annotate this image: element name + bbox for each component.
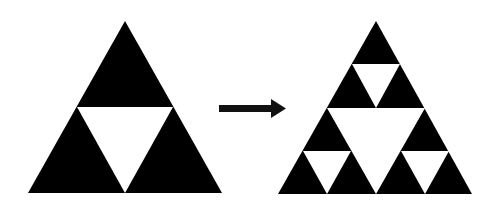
arrow-right-icon: [219, 99, 286, 118]
sierpinski-stage-1: [28, 21, 222, 193]
sierpinski-stage-2: [278, 21, 472, 194]
sierpinski-diagram: [0, 0, 496, 212]
